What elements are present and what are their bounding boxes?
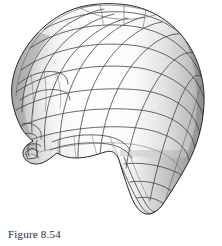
figure-page: Figure 8.54 bbox=[0, 0, 222, 246]
figure-image bbox=[0, 0, 222, 222]
figure-caption: Figure 8.54 bbox=[8, 228, 61, 240]
head-mesh-illustration bbox=[0, 0, 222, 222]
